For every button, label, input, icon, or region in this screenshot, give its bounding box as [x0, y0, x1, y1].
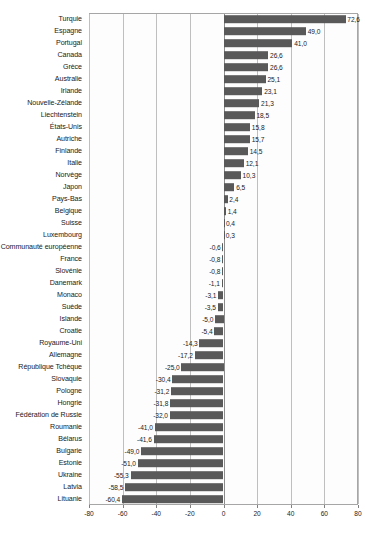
bar	[224, 63, 269, 71]
bar-value-label: 15,8	[252, 124, 265, 131]
bar-value-label: -5,0	[202, 316, 213, 323]
category-label: Finlande	[55, 147, 82, 155]
x-tick-label: 40	[287, 510, 294, 517]
category-label: Croatie	[59, 327, 82, 335]
bar-value-label: 2,4	[229, 196, 238, 203]
category-label: République Tchèque	[18, 363, 82, 371]
category-label: France	[60, 255, 82, 263]
category-label: Japon	[63, 183, 82, 191]
bar-row: Bélarus-41,6	[0, 433, 365, 445]
bar-row: Croatie-5,4	[0, 325, 365, 337]
bar-value-label: 21,3	[261, 100, 274, 107]
bar-row: Canada26,6	[0, 49, 365, 61]
bar-row: Ukraine-55,3	[0, 469, 365, 481]
bar	[224, 207, 226, 215]
bar-row: Fédération de Russie-32,0	[0, 409, 365, 421]
category-label: Pologne	[56, 387, 82, 395]
bar-value-label: -17,2	[178, 352, 193, 359]
bar-value-label: -1,1	[209, 280, 220, 287]
bar-value-label: -0,8	[209, 256, 220, 263]
x-tick-label: 20	[253, 510, 260, 517]
bar-row: Islande-5,0	[0, 313, 365, 325]
bar-value-label: 1,4	[228, 208, 237, 215]
bar-value-label: 26,6	[270, 52, 283, 59]
bar-value-label: 41,0	[294, 40, 307, 47]
bar-value-label: -41,0	[138, 424, 153, 431]
bar-row: Suisse0,4	[0, 217, 365, 229]
bar	[224, 135, 250, 143]
bar-value-label: -25,0	[165, 364, 180, 371]
bar-row: Slovaquie-30,4	[0, 373, 365, 385]
bar-row: Liechtenstein18,5	[0, 109, 365, 121]
bar-row: Danemark-1,1	[0, 277, 365, 289]
bar-row: Autriche15,7	[0, 133, 365, 145]
x-tick	[89, 505, 90, 508]
category-label: Norvège	[56, 171, 82, 179]
bar-value-label: 12,1	[246, 160, 259, 167]
bar-row: Belgique1,4	[0, 205, 365, 217]
bar-value-label: 6,5	[236, 184, 245, 191]
bar	[224, 99, 260, 107]
bar-value-label: 0,3	[226, 232, 235, 239]
bar-row: Suède-3,5	[0, 301, 365, 313]
bar-value-label: -14,3	[183, 340, 198, 347]
bar	[122, 495, 224, 503]
x-axis: -80-60-40-20020406080	[89, 505, 358, 531]
bar-row: Lituanie-60,4	[0, 493, 365, 505]
bar	[224, 87, 263, 95]
bar	[224, 123, 251, 131]
bar	[215, 315, 223, 323]
x-tick	[224, 505, 225, 508]
bar-value-label: -49,0	[125, 448, 140, 455]
bar-chart: Turquie72,6Espagne49,0Portugal41,0Canada…	[0, 0, 365, 536]
bar-value-label: -58,5	[109, 484, 124, 491]
category-label: Portugal	[56, 39, 82, 47]
bar-rows: Turquie72,6Espagne49,0Portugal41,0Canada…	[0, 13, 365, 505]
bar	[154, 435, 224, 443]
category-label: Belgique	[55, 207, 82, 215]
bar	[224, 219, 225, 227]
bar-row: Monaco-3,1	[0, 289, 365, 301]
bar	[222, 243, 223, 251]
bar-row: Slovénie-0,8	[0, 265, 365, 277]
bar-row: Irlande23,1	[0, 85, 365, 97]
x-tick-label: 60	[321, 510, 328, 517]
bar-value-label: 15,7	[252, 136, 265, 143]
category-label: Nouvelle-Zélande	[27, 99, 82, 107]
bar	[138, 459, 224, 467]
bar	[131, 471, 224, 479]
bar-row: Estonie-51,0	[0, 457, 365, 469]
bar-value-label: -30,4	[156, 376, 171, 383]
bar-row: Bulgarie-49,0	[0, 445, 365, 457]
x-tick	[156, 505, 157, 508]
category-label: Danemark	[50, 279, 82, 287]
category-label: Slovénie	[55, 267, 82, 275]
bar-value-label: -41,6	[137, 436, 152, 443]
bar-row: Royaume-Uni-14,3	[0, 337, 365, 349]
bar-row: Grèce26,6	[0, 61, 365, 73]
bar	[224, 39, 293, 47]
bar	[224, 75, 266, 83]
bar-value-label: -0,8	[209, 268, 220, 275]
bar-row: Espagne49,0	[0, 25, 365, 37]
bar-value-label: 25,1	[267, 76, 280, 83]
bar-row: France-0,8	[0, 253, 365, 265]
bar	[224, 171, 241, 179]
category-label: Slovaquie	[51, 375, 82, 383]
x-tick-label: 80	[354, 510, 361, 517]
bar	[218, 303, 224, 311]
category-label: Allemagne	[49, 351, 82, 359]
x-tick-label: -60	[118, 510, 128, 517]
category-label: Irlande	[61, 87, 82, 95]
bar-value-label: 26,6	[270, 64, 283, 71]
bar	[125, 483, 223, 491]
x-tick-label: -80	[84, 510, 94, 517]
bar	[222, 255, 223, 263]
bar-value-label: -3,1	[205, 292, 216, 299]
category-label: Bulgarie	[56, 447, 82, 455]
bar-row: États-Unis15,8	[0, 121, 365, 133]
bar	[224, 159, 244, 167]
x-tick	[324, 505, 325, 508]
bar-value-label: -31,2	[154, 388, 169, 395]
bar-row: République Tchèque-25,0	[0, 361, 365, 373]
